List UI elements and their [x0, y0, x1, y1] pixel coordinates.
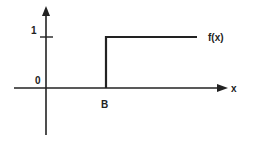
x-axis-label: x — [231, 83, 237, 94]
y-axis-arrow-icon — [42, 6, 50, 16]
step-function-curve — [106, 37, 197, 88]
step-function-diagram: 1 x 0 B f(x) — [0, 0, 256, 143]
origin-label: 0 — [35, 75, 41, 86]
function-label: f(x) — [208, 32, 224, 43]
step-point-label: B — [101, 99, 108, 110]
y-tick-label-1: 1 — [31, 25, 37, 36]
x-axis-arrow-icon — [217, 84, 228, 92]
